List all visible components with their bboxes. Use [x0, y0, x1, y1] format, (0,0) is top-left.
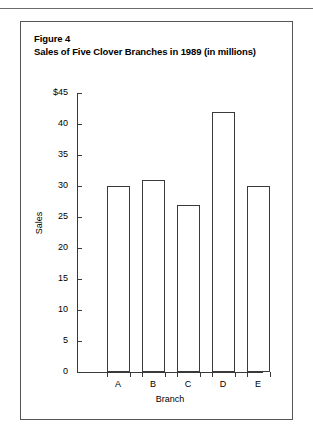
bar	[142, 180, 165, 372]
y-axis-tick-mark	[77, 155, 82, 156]
y-axis-tick-label: 15	[21, 274, 68, 283]
x-axis-tick-mark	[165, 372, 166, 377]
x-axis-title: Branch	[77, 394, 263, 404]
y-axis-tick-mark	[77, 310, 82, 311]
y-axis-tick-mark	[77, 217, 82, 218]
x-axis-tick-label: B	[141, 379, 165, 389]
x-axis-tick-mark	[130, 372, 131, 377]
x-axis-tick-mark	[200, 372, 201, 377]
x-axis-tick-mark	[235, 372, 236, 377]
y-axis-tick-label: 5	[21, 336, 68, 345]
bar	[247, 186, 270, 372]
y-axis-tick-mark	[77, 186, 82, 187]
y-axis-tick: 30	[21, 186, 77, 187]
y-axis-tick: $45	[21, 93, 77, 94]
y-axis-tick-label: 20	[21, 243, 68, 252]
y-axis-tick-label: 25	[21, 212, 68, 221]
x-axis-tick-label: D	[211, 379, 235, 389]
top-divider-rule	[0, 8, 313, 9]
y-axis-tick-label: 40	[21, 119, 68, 128]
y-axis-tick-mark	[77, 279, 82, 280]
y-axis-tick-mark	[77, 341, 82, 342]
x-axis-tick-mark	[107, 372, 108, 377]
y-axis-tick-mark	[77, 248, 82, 249]
x-axis-tick-label: C	[176, 379, 200, 389]
y-axis-tick: 20	[21, 248, 77, 249]
x-axis-tick-mark	[212, 372, 213, 377]
y-axis-tick-label: 30	[21, 181, 68, 190]
bar	[107, 186, 130, 372]
x-axis-tick-label: A	[106, 379, 130, 389]
x-axis-tick-label: E	[246, 379, 270, 389]
x-axis-tick-mark	[142, 372, 143, 377]
x-axis-tick-mark	[270, 372, 271, 377]
y-axis-tick: 15	[21, 279, 77, 280]
bar	[177, 205, 200, 372]
bar	[212, 112, 235, 372]
y-axis-tick-mark	[77, 93, 82, 94]
y-axis-tick: 10	[21, 310, 77, 311]
x-axis-tick-mark	[247, 372, 248, 377]
figure-panel: Figure 4 Sales of Five Clover Branches i…	[20, 21, 293, 420]
y-axis-tick-label: 0	[21, 367, 68, 376]
y-axis-tick: 35	[21, 155, 77, 156]
y-axis-title: Sales	[34, 193, 44, 253]
y-axis-tick-label: $45	[21, 88, 68, 97]
y-axis-tick: 0	[21, 372, 77, 373]
bar-chart-plot: 0510152025303540$45 ABCDE Branch Sales	[21, 22, 294, 421]
y-axis-tick-label: 35	[21, 150, 68, 159]
y-axis-tick-label: 10	[21, 305, 68, 314]
y-axis-tick: 40	[21, 124, 77, 125]
y-axis-tick-mark	[77, 124, 82, 125]
y-axis-tick: 5	[21, 341, 77, 342]
x-axis-tick-mark	[177, 372, 178, 377]
y-axis-tick-mark	[77, 372, 82, 373]
y-axis-line	[77, 93, 78, 373]
y-axis-tick: 25	[21, 217, 77, 218]
